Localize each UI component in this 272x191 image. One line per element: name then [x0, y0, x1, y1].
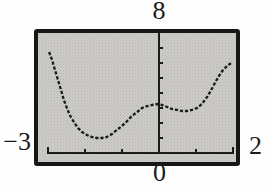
- calculator-graph-figure: 8 −3 2 0: [0, 0, 272, 191]
- ymin-label: 0: [146, 160, 173, 186]
- ymax-label: 8: [146, 0, 172, 24]
- xmin-label: −3: [0, 129, 31, 155]
- graph-canvas: [38, 33, 236, 162]
- calculator-screen: [34, 29, 240, 166]
- xmax-label: 2: [249, 133, 269, 159]
